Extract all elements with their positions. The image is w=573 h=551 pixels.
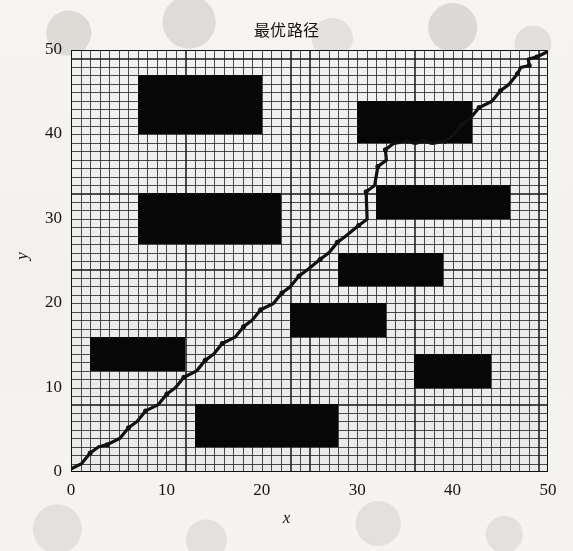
path-point-marker	[443, 139, 448, 144]
path-point-marker	[383, 147, 388, 152]
path-point-marker	[318, 257, 323, 262]
y-tick-label: 10	[22, 377, 62, 397]
x-tick-label: 30	[335, 480, 379, 500]
x-tick-label: 10	[144, 480, 188, 500]
path-point-marker	[126, 425, 131, 430]
x-tick-label: 20	[240, 480, 284, 500]
path-point-marker	[241, 324, 246, 329]
y-tick-label: 40	[22, 123, 62, 143]
y-axis-ticks: 01020304050	[16, 0, 62, 551]
path-polyline	[71, 51, 548, 470]
x-tick-label: 40	[431, 480, 475, 500]
plot-area	[71, 50, 548, 472]
path-point-marker	[203, 358, 208, 363]
path-point-marker	[258, 307, 263, 312]
path-point-marker	[279, 290, 284, 295]
x-tick-label: 50	[526, 480, 570, 500]
x-axis-label: x	[0, 508, 573, 528]
path-point-marker	[375, 164, 380, 169]
path-point-marker	[143, 408, 148, 413]
y-tick-label: 30	[22, 208, 62, 228]
path-point-marker	[105, 442, 110, 447]
x-axis-ticks: 01020304050	[0, 480, 573, 506]
y-tick-label: 50	[22, 39, 62, 59]
path-point-marker	[477, 105, 482, 110]
path-point-marker	[515, 71, 520, 76]
path-markers	[71, 55, 539, 472]
y-tick-label: 20	[22, 292, 62, 312]
chart-title: 最优路径	[0, 17, 573, 41]
optimal-path-line	[71, 50, 548, 472]
y-tick-label: 0	[22, 461, 62, 481]
y-axis-label: y	[12, 252, 32, 260]
path-point-marker	[460, 122, 465, 127]
path-point-marker	[364, 189, 369, 194]
path-point-marker	[534, 55, 539, 60]
x-tick-label: 0	[49, 480, 93, 500]
path-point-marker	[356, 223, 361, 228]
path-point-marker	[527, 63, 532, 68]
path-point-marker	[164, 392, 169, 397]
optimal-path-figure: 最优路径 01020304050 01020304050 x y	[0, 0, 573, 551]
path-point-marker	[404, 139, 409, 144]
path-point-marker	[296, 274, 301, 279]
path-point-marker	[335, 240, 340, 245]
path-point-marker	[88, 451, 93, 456]
path-point-marker	[220, 341, 225, 346]
path-point-marker	[498, 88, 503, 93]
path-point-marker	[181, 375, 186, 380]
path-point-marker	[421, 139, 426, 144]
